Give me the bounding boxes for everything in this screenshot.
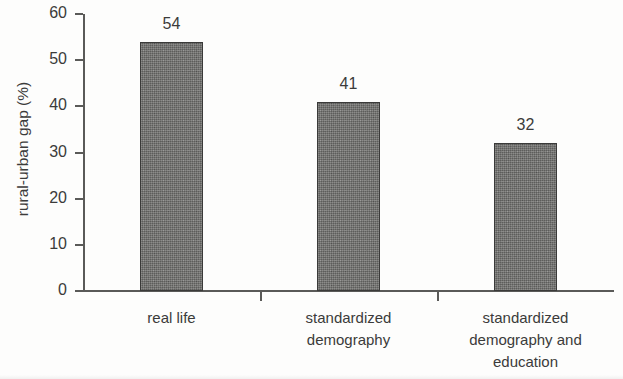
x-axis-label-line: demography and [469, 331, 582, 348]
bar-value-label: 54 [132, 15, 212, 33]
bar-value-label: 32 [486, 116, 566, 134]
y-axis-tick-label: 30 [33, 143, 67, 161]
y-axis-tick [75, 244, 83, 246]
x-axis-tick [437, 292, 439, 301]
y-axis-tick [75, 105, 83, 107]
bar-value-label: 41 [309, 75, 389, 93]
y-axis-tick-label: 20 [33, 189, 67, 207]
x-axis-tick [260, 292, 262, 301]
y-axis-tick [75, 152, 83, 154]
y-axis-tick [75, 13, 83, 15]
x-axis-label-line: education [493, 353, 558, 370]
y-axis-tick-label: 60 [33, 4, 67, 22]
y-axis-line [83, 14, 85, 292]
y-axis-tick-label: 0 [33, 281, 67, 299]
y-axis-tick [75, 290, 83, 292]
y-axis-tick-label: 50 [33, 50, 67, 68]
bar [317, 102, 380, 291]
x-axis-label-line: standardized [483, 309, 569, 326]
bar-chart-figure: rural-urban gap (%) 0102030405060 54real… [0, 0, 623, 379]
x-axis-label-line: real life [147, 309, 195, 326]
x-axis-category-label: standardizeddemography [260, 307, 437, 351]
y-axis-tick-label: 40 [33, 96, 67, 114]
bar [140, 42, 203, 291]
x-axis-category-label: standardizeddemography andeducation [437, 307, 614, 373]
x-axis-label-line: standardized [306, 309, 392, 326]
scan-artifact [0, 375, 623, 379]
y-axis-tick-label: 10 [33, 235, 67, 253]
y-axis-tick [75, 59, 83, 61]
x-axis-label-line: demography [307, 331, 390, 348]
x-axis-category-label: real life [83, 307, 260, 329]
bar [494, 143, 557, 291]
y-axis-tick [75, 198, 83, 200]
y-axis-title: rural-urban gap (%) [14, 29, 32, 269]
